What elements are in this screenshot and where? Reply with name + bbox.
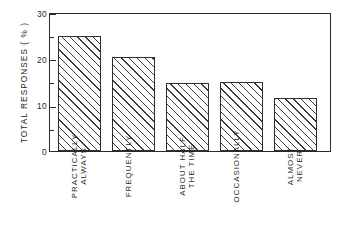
y-tick-label-30: 30	[25, 9, 47, 19]
x-cat-label-practically-always: PRACTICALLY ALWAYS	[70, 128, 86, 204]
x-cat-label-occasionally: OCCASIONALLY	[232, 128, 248, 204]
y-tick-major-20	[50, 60, 56, 61]
y-tick-label-10: 10	[25, 101, 47, 111]
y-tick-major-30	[50, 14, 56, 15]
y-axis-title: TOTAL RESPONSES ( % )	[20, 3, 29, 163]
y-tick-minor-5	[50, 130, 54, 131]
y-tick-major-10	[50, 107, 56, 108]
y-tick-minor-25	[50, 37, 54, 38]
x-cat-label-line1: OCCASIONALLY	[232, 130, 241, 203]
x-cat-label-line1: PRACTICALLY	[70, 134, 79, 198]
x-cat-label-line1: ALMOST	[286, 147, 295, 185]
x-cat-label-almost-never: ALMOST NEVER	[286, 128, 302, 204]
x-cat-label-about-half-the-time: ABOUT HALF THE TIME	[178, 128, 194, 204]
x-cat-label-line2: THE TIME	[187, 128, 196, 204]
x-cat-label-frequently: FREQUENTLY	[124, 128, 140, 204]
bar-chart: TOTAL RESPONSES ( % ) 30 20 10 0 PRACTIC…	[0, 0, 339, 236]
x-cat-label-line2: NEVER	[295, 128, 304, 204]
x-cat-label-line1: ABOUT HALF	[178, 136, 187, 195]
y-tick-label-0: 0	[25, 147, 47, 157]
x-cat-label-line1: FREQUENTLY	[124, 135, 133, 197]
y-tick-label-20: 20	[25, 55, 47, 65]
x-cat-label-line2: ALWAYS	[79, 128, 88, 204]
y-tick-minor-15	[50, 83, 54, 84]
